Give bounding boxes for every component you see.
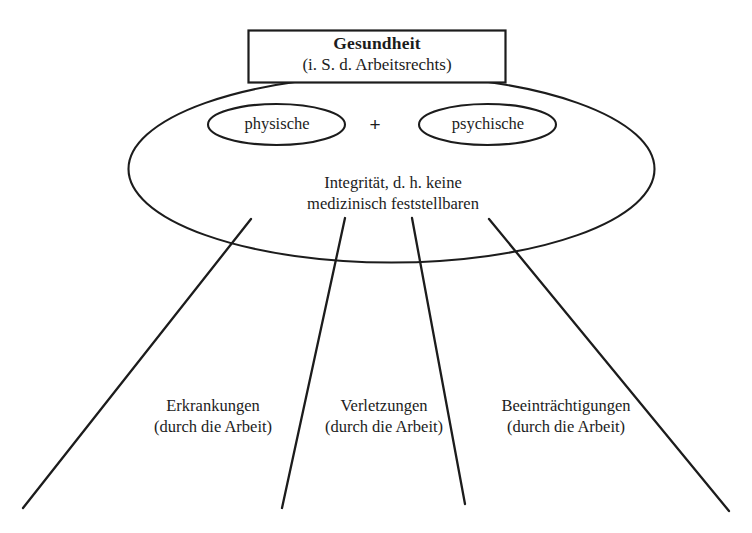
category-qualifier: (durch die Arbeit) bbox=[118, 416, 308, 437]
page-title: Gesundheit bbox=[248, 33, 506, 54]
ray-line-4 bbox=[489, 219, 729, 511]
category-erkrankungen: Erkrankungen (durch die Arbeit) bbox=[118, 395, 308, 437]
ray-line-1 bbox=[23, 219, 251, 508]
main-ellipse bbox=[129, 76, 655, 263]
category-name: Erkrankungen bbox=[118, 395, 308, 416]
definition-text: Integrität, d. h. keine medizinisch fest… bbox=[243, 172, 543, 215]
category-qualifier: (durch die Arbeit) bbox=[298, 416, 470, 437]
category-verletzungen: Verletzungen (durch die Arbeit) bbox=[298, 395, 470, 437]
diagram-canvas bbox=[0, 0, 752, 533]
ray-line-2 bbox=[282, 218, 345, 508]
health-concept-diagram: Gesundheit (i. S. d. Arbeitsrechts) phys… bbox=[0, 0, 752, 533]
definition-line-2: medizinisch feststellbaren bbox=[243, 193, 543, 214]
title-subtitle: (i. S. d. Arbeitsrechts) bbox=[248, 55, 506, 76]
category-name: Verletzungen bbox=[298, 395, 470, 416]
physische-label: physische bbox=[208, 114, 346, 134]
definition-line-1: Integrität, d. h. keine bbox=[243, 172, 543, 193]
title-box-text: Gesundheit (i. S. d. Arbeitsrechts) bbox=[248, 33, 506, 76]
category-qualifier: (durch die Arbeit) bbox=[460, 416, 672, 437]
plus-operator: + bbox=[355, 113, 395, 136]
category-beeintraechtigungen: Beeinträchtigungen (durch die Arbeit) bbox=[460, 395, 672, 437]
psychische-label: psychische bbox=[419, 114, 557, 134]
category-name: Beeinträchtigungen bbox=[460, 395, 672, 416]
